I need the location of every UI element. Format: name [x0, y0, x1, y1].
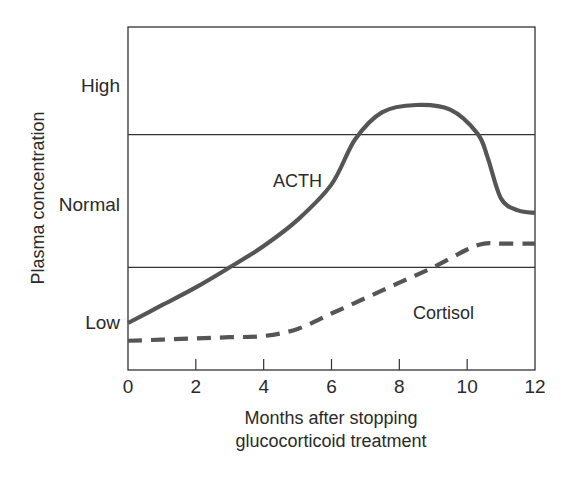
x-tick-label: 6 [326, 376, 337, 397]
y-axis-ticks: LowNormalHigh [59, 75, 121, 333]
chart: 024681012 LowNormalHigh ACTHCortisol Pla… [0, 0, 569, 479]
cortisol-label: Cortisol [413, 303, 474, 323]
x-tick-label: 8 [394, 376, 405, 397]
x-axis-ticks: 024681012 [123, 359, 546, 397]
y-tick-label-high: High [81, 75, 120, 96]
x-tick-label: 0 [123, 376, 134, 397]
y-axis-title: Plasma concentration [28, 111, 48, 284]
x-axis-title-line-1: Months after stopping [244, 408, 417, 428]
y-tick-label-normal: Normal [59, 194, 120, 215]
series-annotations: ACTHCortisol [273, 171, 474, 324]
series-lines [128, 105, 535, 341]
acth-label: ACTH [273, 171, 322, 191]
y-tick-label-low: Low [85, 312, 120, 333]
plot-frame [128, 27, 535, 370]
x-tick-label: 4 [258, 376, 269, 397]
x-tick-label: 10 [457, 376, 478, 397]
x-axis-title-line-2: glucocorticoid treatment [235, 431, 426, 451]
acth-line [128, 105, 535, 323]
x-tick-label: 12 [524, 376, 545, 397]
x-tick-label: 2 [191, 376, 202, 397]
normal-range-lines [128, 135, 535, 268]
